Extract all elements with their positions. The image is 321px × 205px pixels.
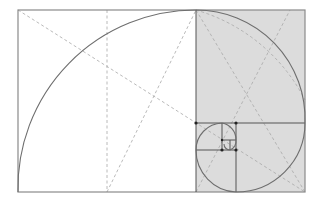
golden-spiral-diagram: [0, 0, 321, 205]
